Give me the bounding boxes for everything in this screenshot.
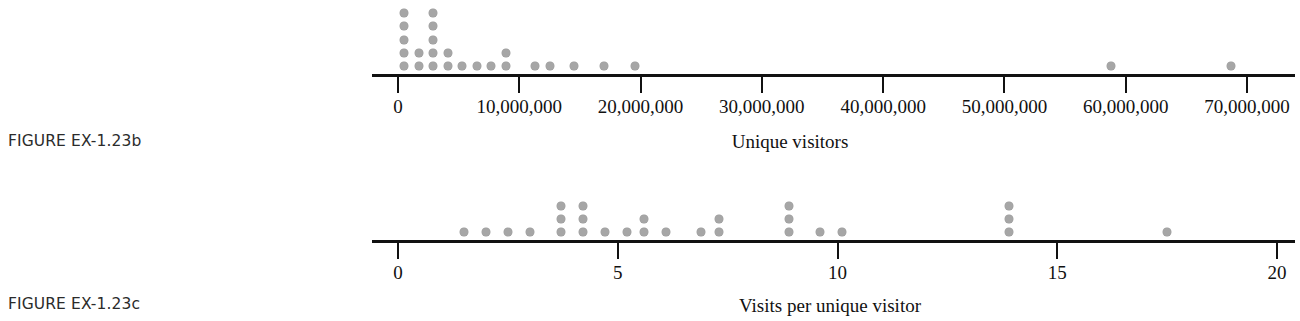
x-axis-tick-label: 15 [1048, 262, 1067, 284]
x-axis-tick-label: 5 [613, 262, 623, 284]
x-axis-tick [1276, 243, 1278, 259]
data-dot [838, 228, 846, 236]
data-dot [600, 62, 608, 70]
data-dot [473, 62, 481, 70]
data-dot [504, 228, 512, 236]
data-dot [400, 49, 408, 57]
data-dot [579, 215, 587, 223]
data-dot [557, 202, 565, 210]
data-dot [715, 215, 723, 223]
x-axis-line-visits-per-visitor [372, 240, 1295, 243]
data-dot [640, 215, 648, 223]
data-dot [415, 62, 423, 70]
x-axis-tick [761, 77, 763, 93]
data-dot [444, 49, 452, 57]
x-axis-tick-label: 0 [393, 96, 403, 118]
x-axis-tick-label: 60,000,000 [1083, 96, 1169, 118]
data-dot [429, 62, 437, 70]
x-axis-tick [1056, 243, 1058, 259]
data-dot [400, 22, 408, 30]
data-dot [482, 228, 490, 236]
x-axis-tick-label: 50,000,000 [962, 96, 1048, 118]
data-dot [557, 215, 565, 223]
dotplot-unique-visitors: 010,000,00020,000,00030,000,00040,000,00… [0, 0, 1300, 321]
figure-caption-ex-1-23c: FIGURE EX-1.23c [8, 295, 140, 313]
data-dot [400, 36, 408, 44]
data-dot [631, 62, 639, 70]
data-dot [526, 228, 534, 236]
x-axis-line-unique-visitors [372, 74, 1295, 77]
data-dot [429, 36, 437, 44]
data-dot [415, 49, 423, 57]
x-axis-tick [1003, 77, 1005, 93]
x-axis-tick [882, 77, 884, 93]
data-dot [785, 202, 793, 210]
x-axis-tick [640, 77, 642, 93]
data-dot [502, 62, 510, 70]
x-axis-tick-label: 0 [393, 262, 403, 284]
data-dot [1005, 215, 1013, 223]
data-dot [662, 228, 670, 236]
data-dot [487, 62, 495, 70]
x-axis-tick-label: 40,000,000 [840, 96, 926, 118]
data-dot [400, 62, 408, 70]
data-dot [1107, 62, 1115, 70]
x-axis-tick-label: 10 [828, 262, 847, 284]
data-dot [623, 228, 631, 236]
dot-layer-visits-per-visitor [0, 0, 1300, 321]
data-dot [400, 9, 408, 17]
dot-layer-unique-visitors [0, 0, 1300, 321]
figure-caption-ex-1-23b: FIGURE EX-1.23b [8, 132, 141, 150]
data-dot [579, 228, 587, 236]
data-dot [640, 228, 648, 236]
data-dot [502, 49, 510, 57]
x-axis-title-visits-per-visitor: Visits per unique visitor [739, 295, 921, 317]
x-axis-tick-label: 30,000,000 [719, 96, 805, 118]
data-dot [458, 62, 466, 70]
data-dot [715, 228, 723, 236]
data-dot [429, 22, 437, 30]
x-axis-tick [1246, 77, 1248, 93]
data-dot [429, 49, 437, 57]
x-axis-tick-label: 10,000,000 [477, 96, 563, 118]
data-dot [557, 228, 565, 236]
x-axis-tick [397, 243, 399, 259]
dotplot-visits-per-unique-visitor: 05101520 Visits per unique visitor [0, 0, 1300, 321]
data-dot [601, 228, 609, 236]
x-axis-tick [518, 77, 520, 93]
x-axis-title-unique-visitors: Unique visitors [732, 131, 849, 153]
data-dot [1005, 228, 1013, 236]
x-axis-tick [617, 243, 619, 259]
data-dot [579, 202, 587, 210]
data-dot [531, 62, 539, 70]
data-dot [570, 62, 578, 70]
data-dot [460, 228, 468, 236]
data-dot [785, 215, 793, 223]
x-axis-tick [397, 77, 399, 93]
data-dot [697, 228, 705, 236]
data-dot [816, 228, 824, 236]
x-axis-tick-label: 20 [1268, 262, 1287, 284]
x-axis-tick-label: 70,000,000 [1204, 96, 1290, 118]
data-dot [1163, 228, 1171, 236]
data-dot [429, 9, 437, 17]
x-axis-tick [1125, 77, 1127, 93]
data-dot [785, 228, 793, 236]
data-dot [444, 62, 452, 70]
x-axis-tick-label: 20,000,000 [598, 96, 684, 118]
x-axis-tick [837, 243, 839, 259]
data-dot [546, 62, 554, 70]
data-dot [1005, 202, 1013, 210]
data-dot [1227, 62, 1235, 70]
